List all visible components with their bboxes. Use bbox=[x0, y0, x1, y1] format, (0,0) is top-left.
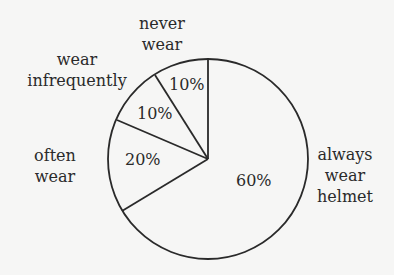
category-label-often: wear bbox=[35, 167, 76, 186]
pct-label-infrequent: 10% bbox=[137, 104, 173, 123]
pct-label-often: 20% bbox=[125, 150, 161, 169]
category-label-always: always bbox=[317, 145, 372, 164]
category-label-infrequent: infrequently bbox=[27, 71, 126, 90]
pie-chart: 60% 20% 10% 10% never wear wear infreque… bbox=[0, 0, 394, 275]
category-label-always: wear bbox=[325, 166, 366, 185]
category-label-never: never bbox=[139, 14, 185, 33]
category-label-always: helmet bbox=[317, 187, 374, 206]
pct-label-always: 60% bbox=[236, 171, 272, 190]
category-label-infrequent: wear bbox=[57, 50, 98, 69]
category-label-often: often bbox=[34, 146, 76, 165]
pct-label-never: 10% bbox=[169, 75, 205, 94]
category-label-never: wear bbox=[142, 35, 183, 54]
